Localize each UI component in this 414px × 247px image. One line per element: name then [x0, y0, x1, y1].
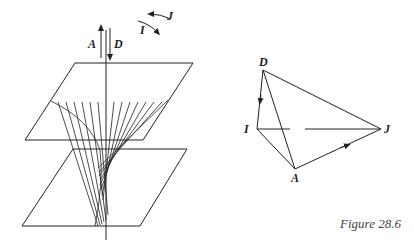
vertex-d: D [259, 55, 268, 70]
diagram-svg [0, 0, 414, 247]
ruled-surface [51, 100, 168, 226]
vertex-j: J [384, 122, 390, 137]
label-d: D [114, 37, 123, 52]
label-a: A [88, 37, 96, 52]
label-j: J [167, 9, 173, 24]
figure-caption: Figure 28.6 [340, 216, 401, 232]
upper-plane [25, 63, 193, 140]
edge-arrow-aj-icon [340, 145, 348, 148]
tetrahedron [257, 70, 381, 169]
vertex-i: I [244, 122, 249, 137]
vertex-a: A [291, 171, 299, 186]
label-i: I [140, 23, 145, 38]
figure-canvas: A D I J D I J A Figure 28.6 [0, 0, 414, 247]
